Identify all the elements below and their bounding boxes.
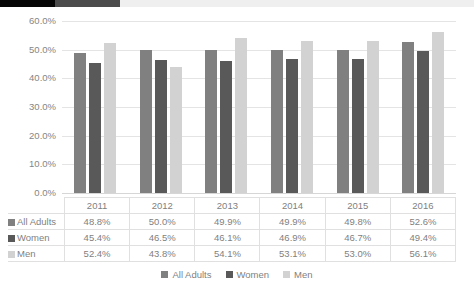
bar-women[interactable]	[286, 59, 298, 193]
data-table-header-row: 201120122013201420152016	[8, 198, 456, 214]
bar-all-adults[interactable]	[402, 42, 414, 193]
bar-group	[193, 21, 259, 193]
axis-baseline	[62, 193, 456, 194]
data-table-value-cell: 49.4%	[390, 230, 455, 246]
bar-women[interactable]	[220, 61, 232, 193]
data-table-value-cell: 49.8%	[325, 214, 390, 230]
chart-data-table: 201120122013201420152016All Adults48.8%5…	[8, 197, 456, 262]
legend-swatch-men-icon	[283, 271, 290, 278]
bar-all-adults[interactable]	[140, 50, 152, 193]
legend-item[interactable]: All Adults	[161, 269, 211, 280]
data-table-value-cell: 49.9%	[260, 214, 325, 230]
data-table-column-header: 2014	[260, 198, 325, 214]
bar-men[interactable]	[235, 38, 247, 193]
bar-group	[128, 21, 194, 193]
data-table-value-cell: 46.1%	[195, 230, 260, 246]
y-axis-tick-label: 10.0%	[0, 159, 56, 169]
data-table-row-header: Women	[8, 230, 65, 246]
series-swatch-icon	[8, 235, 15, 242]
bar-women[interactable]	[417, 51, 429, 193]
chart-container: 60.0%50.0%40.0%30.0%20.0%10.0%0.0% 20112…	[0, 7, 474, 291]
data-table-value-cell: 46.5%	[130, 230, 195, 246]
data-table-value-cell: 48.8%	[65, 214, 130, 230]
legend-item[interactable]: Women	[226, 269, 270, 280]
y-axis-tick-label: 30.0%	[0, 102, 56, 112]
legend-item-label: Women	[237, 269, 270, 280]
data-table-value-cell: 54.1%	[195, 246, 260, 262]
series-name-label: Men	[17, 248, 35, 259]
data-table-value-cell: 53.1%	[260, 246, 325, 262]
data-table-row: Men52.4%43.8%54.1%53.1%53.0%56.1%	[8, 246, 456, 262]
plot-wrapper: 60.0%50.0%40.0%30.0%20.0%10.0%0.0%	[0, 21, 474, 205]
top-strip-pale-segment	[120, 0, 474, 7]
legend-swatch-women-icon	[226, 271, 233, 278]
data-table-corner-cell	[8, 198, 65, 214]
legend-swatch-all-adults-icon	[161, 271, 168, 278]
bar-all-adults[interactable]	[271, 50, 283, 193]
chart-legend: All AdultsWomenMen	[0, 269, 474, 280]
data-table-row: All Adults48.8%50.0%49.9%49.9%49.8%52.6%	[8, 214, 456, 230]
data-table-value-cell: 46.9%	[260, 230, 325, 246]
document-top-strip	[0, 0, 474, 7]
data-table-column-header: 2013	[195, 198, 260, 214]
data-table-value-cell: 53.0%	[325, 246, 390, 262]
data-table-column-header: 2015	[325, 198, 390, 214]
series-name-label: Women	[17, 232, 50, 243]
data-table-value-cell: 52.4%	[65, 246, 130, 262]
y-axis-tick-label: 60.0%	[0, 16, 56, 26]
bar-men[interactable]	[104, 43, 116, 193]
bar-group	[62, 21, 128, 193]
data-table-value-cell: 49.9%	[195, 214, 260, 230]
bar-group	[325, 21, 391, 193]
y-axis-tick-label: 50.0%	[0, 45, 56, 55]
top-strip-gray-segment	[55, 0, 120, 7]
legend-item-label: Men	[294, 269, 312, 280]
bar-men[interactable]	[301, 41, 313, 193]
data-table-row-header: All Adults	[8, 214, 65, 230]
data-table-value-cell: 50.0%	[130, 214, 195, 230]
data-table-column-header: 2016	[390, 198, 455, 214]
y-axis-tick-label: 40.0%	[0, 73, 56, 83]
data-table-row-header: Men	[8, 246, 65, 262]
legend-item[interactable]: Men	[283, 269, 312, 280]
data-table-value-cell: 56.1%	[390, 246, 455, 262]
series-name-label: All Adults	[17, 216, 56, 227]
series-swatch-icon	[8, 251, 15, 258]
bar-women[interactable]	[89, 63, 101, 193]
data-table-column-header: 2012	[130, 198, 195, 214]
data-table-column-header: 2011	[65, 198, 130, 214]
data-table-value-cell: 43.8%	[130, 246, 195, 262]
bar-all-adults[interactable]	[74, 53, 86, 193]
bar-group	[390, 21, 456, 193]
legend-item-label: All Adults	[172, 269, 211, 280]
data-table-value-cell: 45.4%	[65, 230, 130, 246]
bar-women[interactable]	[155, 60, 167, 193]
bar-men[interactable]	[170, 67, 182, 193]
bar-groups	[62, 21, 456, 193]
data-table-value-cell: 52.6%	[390, 214, 455, 230]
bar-men[interactable]	[367, 41, 379, 193]
bar-group	[259, 21, 325, 193]
data-table-body: 201120122013201420152016All Adults48.8%5…	[8, 198, 456, 262]
y-axis-tick-label: 20.0%	[0, 131, 56, 141]
data-table-row: Women45.4%46.5%46.1%46.9%46.7%49.4%	[8, 230, 456, 246]
plot-area	[62, 21, 456, 193]
y-axis: 60.0%50.0%40.0%30.0%20.0%10.0%0.0%	[0, 21, 60, 193]
series-swatch-icon	[8, 219, 15, 226]
bar-women[interactable]	[352, 59, 364, 193]
bar-all-adults[interactable]	[205, 50, 217, 193]
bar-all-adults[interactable]	[337, 50, 349, 193]
data-table-value-cell: 46.7%	[325, 230, 390, 246]
bar-men[interactable]	[432, 32, 444, 193]
top-strip-black-segment	[0, 0, 55, 7]
